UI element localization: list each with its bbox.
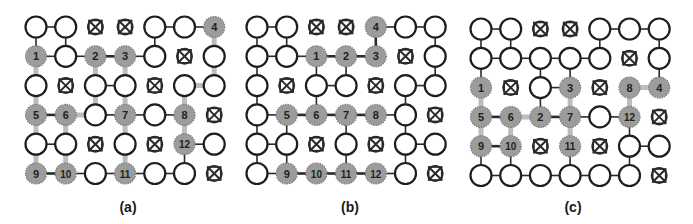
- grid-node: [115, 134, 136, 155]
- grid-node: [530, 48, 551, 69]
- blocked-cell-icon: [147, 78, 162, 93]
- grid-node: [115, 75, 136, 96]
- grid-node: [144, 17, 165, 38]
- panel-c: 138456271291011: [471, 19, 670, 187]
- blocked-cell-icon: [533, 22, 548, 37]
- labeled-node: 2: [336, 46, 357, 67]
- node-label: 2: [92, 50, 98, 62]
- grid-node: [500, 165, 521, 186]
- grid-node: [174, 17, 195, 38]
- node-label: 2: [343, 50, 349, 62]
- node-label: 6: [63, 109, 69, 121]
- grid-node: [500, 48, 521, 69]
- labeled-node: 1: [471, 77, 492, 98]
- grid-node: [425, 75, 446, 96]
- labeled-node: 2: [85, 46, 106, 67]
- node-label: 10: [60, 169, 72, 180]
- node-label: 11: [565, 141, 576, 152]
- node-label: 12: [370, 169, 382, 180]
- labeled-node: 6: [500, 106, 521, 127]
- labeled-node: 4: [649, 77, 670, 98]
- node-label: 9: [478, 140, 484, 152]
- node-label: 9: [33, 168, 39, 180]
- grid-node: [85, 75, 106, 96]
- grid-node: [26, 134, 47, 155]
- blocked-cell-icon: [563, 22, 578, 37]
- grid-node: [174, 163, 195, 184]
- grid-node: [247, 104, 268, 125]
- blocked-cell-icon: [428, 166, 443, 181]
- blocked-cell-icon: [207, 107, 222, 122]
- labeled-node: 7: [560, 106, 581, 127]
- node-label: 6: [508, 111, 514, 123]
- labeled-node: 7: [115, 104, 136, 125]
- node-label: 1: [478, 82, 484, 94]
- grid-node: [589, 106, 610, 127]
- grid-node: [425, 17, 446, 38]
- blocked-cell-icon: [503, 80, 518, 95]
- panel-a-caption: (a): [119, 199, 136, 215]
- node-label: 12: [624, 112, 636, 123]
- labeled-node: 1: [26, 46, 47, 67]
- node-label: 4: [373, 21, 380, 33]
- labeled-node: 6: [306, 104, 327, 125]
- labeled-node: 4: [204, 17, 225, 38]
- labeled-node: 12: [619, 106, 640, 127]
- grid-node: [247, 163, 268, 184]
- grid-graph-figure: 412356781291011 412356789101112 13845627…: [0, 0, 693, 224]
- blocked-cell-icon: [652, 168, 667, 183]
- labeled-node: 11: [115, 163, 136, 184]
- grid-node: [471, 165, 492, 186]
- labeled-node: 8: [619, 77, 640, 98]
- grid-node: [425, 134, 446, 155]
- blocked-cell-icon: [309, 20, 324, 35]
- grid-node: [85, 104, 106, 125]
- node-label: 4: [211, 21, 218, 33]
- blocked-cell-icon: [428, 107, 443, 122]
- panel-b-caption: (b): [341, 199, 359, 215]
- grid-node: [395, 75, 416, 96]
- grid-node: [560, 48, 581, 69]
- grid-node: [395, 134, 416, 155]
- blocked-cell-icon: [207, 166, 222, 181]
- labeled-node: 1: [306, 46, 327, 67]
- grid-node: [425, 46, 446, 67]
- labeled-node: 3: [365, 46, 386, 67]
- grid-node: [336, 134, 357, 155]
- grid-node: [395, 104, 416, 125]
- node-label: 8: [181, 109, 187, 121]
- grid-node: [204, 75, 225, 96]
- labeled-node: 5: [471, 106, 492, 127]
- grid-node: [174, 75, 195, 96]
- node-label: 9: [284, 168, 290, 180]
- blocked-cell-icon: [118, 20, 133, 35]
- grid-node: [530, 77, 551, 98]
- labeled-node: 9: [471, 136, 492, 157]
- node-label: 8: [626, 82, 632, 94]
- labeled-node: 10: [306, 163, 327, 184]
- node-label: 5: [478, 111, 484, 123]
- grid-node: [589, 19, 610, 40]
- node-label: 11: [341, 169, 352, 180]
- grid-node: [247, 46, 268, 67]
- labeled-node: 4: [365, 17, 386, 38]
- grid-node: [247, 17, 268, 38]
- grid-node: [276, 17, 297, 38]
- grid-node: [471, 48, 492, 69]
- blocked-cell-icon: [339, 20, 354, 35]
- node-label: 12: [179, 139, 191, 150]
- grid-node: [306, 75, 327, 96]
- grid-node: [55, 134, 76, 155]
- blocked-cell-icon: [622, 51, 637, 66]
- labeled-node: 10: [500, 136, 521, 157]
- labeled-node: 6: [55, 104, 76, 125]
- grid-node: [247, 75, 268, 96]
- labeled-node: 7: [336, 104, 357, 125]
- node-label: 7: [567, 111, 573, 123]
- node-label: 2: [537, 111, 543, 123]
- node-label: 7: [343, 109, 349, 121]
- grid-node: [649, 19, 670, 40]
- grid-node: [204, 134, 225, 155]
- grid-node: [144, 104, 165, 125]
- labeled-node: 8: [365, 104, 386, 125]
